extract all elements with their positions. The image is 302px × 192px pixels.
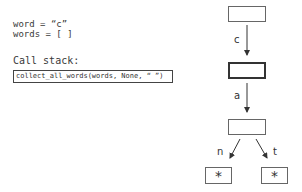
trie-node-c-current bbox=[229, 63, 265, 78]
edge-t-arrow bbox=[256, 139, 267, 158]
end-marker-can: * bbox=[215, 168, 222, 184]
trie-node-ca bbox=[229, 120, 266, 135]
end-marker-cat: * bbox=[271, 168, 278, 184]
edge-label-c: c bbox=[234, 34, 240, 45]
trie-diagram: c a n t * * bbox=[0, 0, 302, 192]
edge-label-a: a bbox=[234, 90, 240, 101]
trie-node-root bbox=[229, 7, 266, 22]
edge-label-n: n bbox=[217, 146, 223, 157]
edge-n-arrow bbox=[230, 139, 240, 158]
edge-label-t: t bbox=[273, 146, 277, 157]
